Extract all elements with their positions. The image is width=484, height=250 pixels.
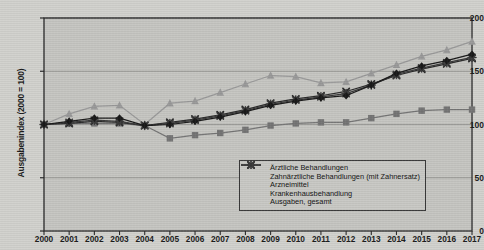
x-tick-label: 2017 xyxy=(463,234,481,244)
legend-marker-triangle-icon xyxy=(244,181,266,189)
x-tick-label: 2010 xyxy=(287,234,305,244)
x-tick-label: 2016 xyxy=(438,234,456,244)
chart-legend: Ärztliche BehandlungenZahnärztliche Beha… xyxy=(239,160,426,211)
legend-item-label: Ausgaben, gesamt xyxy=(270,198,332,207)
x-tick-label: 2013 xyxy=(362,234,380,244)
y-tick-label: 200 xyxy=(450,13,484,23)
x-tick-label: 2003 xyxy=(110,234,128,244)
x-tick-label: 2011 xyxy=(312,234,330,244)
x-tick-label: 2009 xyxy=(261,234,279,244)
legend-marker-cross-icon xyxy=(244,190,266,198)
y-tick-label: 150 xyxy=(450,66,484,76)
x-tick-label: 2012 xyxy=(337,234,355,244)
x-tick-label: 2007 xyxy=(211,234,229,244)
legend-item: Ausgaben, gesamt xyxy=(244,198,420,207)
x-tick-label: 2015 xyxy=(412,234,430,244)
legend-marker-square-icon xyxy=(244,173,266,181)
y-tick-label: 50 xyxy=(450,173,484,183)
chart-figure: Ausgabenindex (2000 = 100) 050100150200 … xyxy=(0,0,484,250)
x-tick-label: 2001 xyxy=(60,234,78,244)
y-tick-label: 100 xyxy=(450,120,484,130)
legend-marker-asterisk-icon xyxy=(244,199,266,207)
x-tick-label: 2005 xyxy=(161,234,179,244)
x-tick-label: 2004 xyxy=(135,234,153,244)
x-tick-label: 2002 xyxy=(85,234,103,244)
x-tick-label: 2008 xyxy=(236,234,254,244)
x-tick-label: 2006 xyxy=(186,234,204,244)
chart-plot-area xyxy=(0,0,484,250)
x-tick-label: 2014 xyxy=(387,234,405,244)
x-tick-label: 2000 xyxy=(35,234,53,244)
